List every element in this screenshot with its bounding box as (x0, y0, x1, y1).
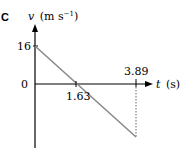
y-tick-label-16: 16 (17, 40, 31, 53)
origin-label: 0 (21, 78, 28, 91)
y-axis-arrow-icon (32, 24, 38, 32)
velocity-time-graph: C v (m s−1) t (s) 16 0 1.63 3.89 (0, 0, 183, 155)
x-axis-label: t (s) (156, 78, 180, 91)
panel-label: C (1, 11, 9, 23)
x-end-label: 3.89 (124, 65, 149, 78)
x-axis-arrow-icon (145, 81, 153, 87)
x-intercept-label: 1.63 (66, 90, 91, 103)
y-axis-label: v (m s−1) (28, 10, 78, 23)
